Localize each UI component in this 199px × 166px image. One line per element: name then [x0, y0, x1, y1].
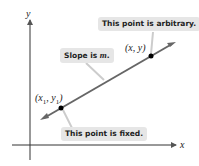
- arbitrary-point-label: (x, y): [125, 42, 146, 53]
- arbitrary-point: [149, 54, 154, 59]
- fixed-point: [59, 106, 64, 111]
- callout-arbitrary: This point is arbitrary.: [98, 17, 199, 31]
- leader-slope: [86, 63, 104, 80]
- y-axis-label: y: [26, 8, 30, 19]
- leader-fixed: [63, 110, 72, 128]
- line-arrow-left: [40, 113, 49, 120]
- callout-fixed: This point is fixed.: [61, 127, 147, 141]
- leader-arbitrary: [151, 32, 153, 54]
- fixed-point-label: (x1, y1): [35, 92, 63, 106]
- x-axis-label: x: [180, 139, 184, 150]
- callout-slope: Slope is m.: [60, 48, 114, 63]
